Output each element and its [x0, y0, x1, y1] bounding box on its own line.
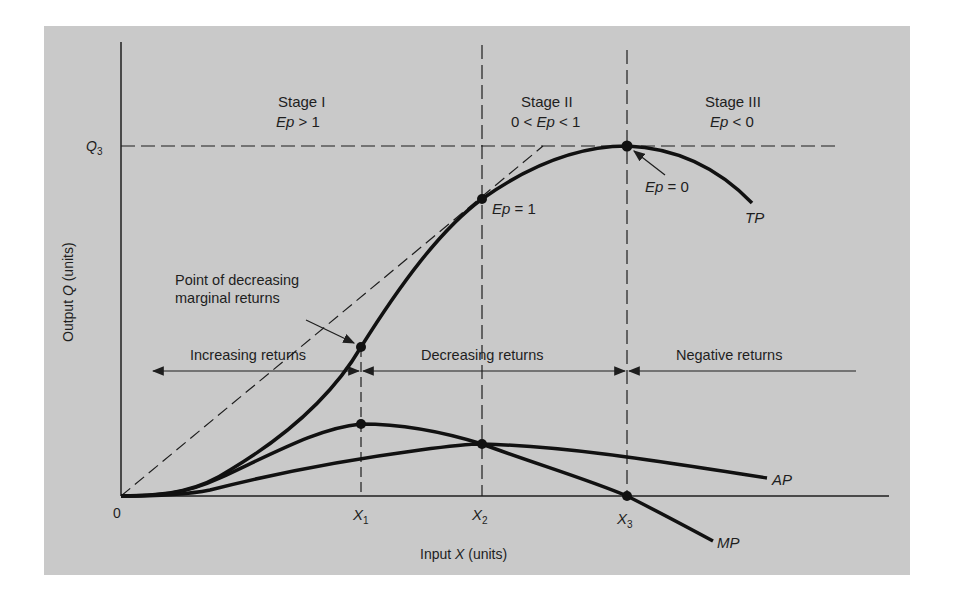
decreasing-returns-label: Decreasing returns [421, 347, 544, 363]
origin-label: 0 [113, 505, 121, 521]
pdmr-label-line2: marginal returns [175, 290, 280, 306]
stage3-condition: Ep < 0 [710, 113, 754, 130]
x2-tick-label: X2 [471, 506, 488, 526]
ep0-label: Ep = 0 [645, 178, 689, 195]
tp-label: TP [745, 209, 764, 226]
ep1-point [477, 194, 487, 204]
ap-mp-intersection-point [477, 439, 487, 449]
mp-label: MP [717, 534, 740, 551]
x-axis-title: Input X (units) [420, 546, 507, 562]
x1-tick-label: X1 [352, 506, 369, 526]
production-function-chart: Stage I Ep > 1 Stage II 0 < Ep < 1 Stage… [0, 0, 955, 599]
ap-curve [121, 444, 767, 496]
increasing-returns-label: Increasing returns [190, 347, 306, 363]
stage2-condition: 0 < Ep < 1 [511, 113, 580, 130]
stage3-label: Stage III [705, 93, 761, 110]
stage2-label: Stage II [521, 93, 573, 110]
y-axis-title: Output Q (units) [60, 242, 76, 342]
tp-curve [121, 146, 752, 496]
ep1-label: Ep = 1 [492, 200, 536, 217]
negative-returns-label: Negative returns [676, 347, 782, 363]
pdmr-label-line1: Point of decreasing [175, 272, 299, 288]
ep0-pointer-arrow [634, 151, 665, 175]
tp-max-point [622, 141, 633, 152]
ap-label: AP [771, 471, 792, 488]
stage1-condition: Ep > 1 [276, 113, 320, 130]
x3-tick-label: X3 [616, 510, 633, 530]
stage1-label: Stage I [278, 93, 326, 110]
mp-peak-point [356, 419, 366, 429]
inflection-point [356, 342, 366, 352]
pdmr-pointer-arrow [306, 320, 354, 343]
mp-zero-point [622, 491, 632, 501]
q3-tick-label: Q3 [86, 138, 103, 157]
